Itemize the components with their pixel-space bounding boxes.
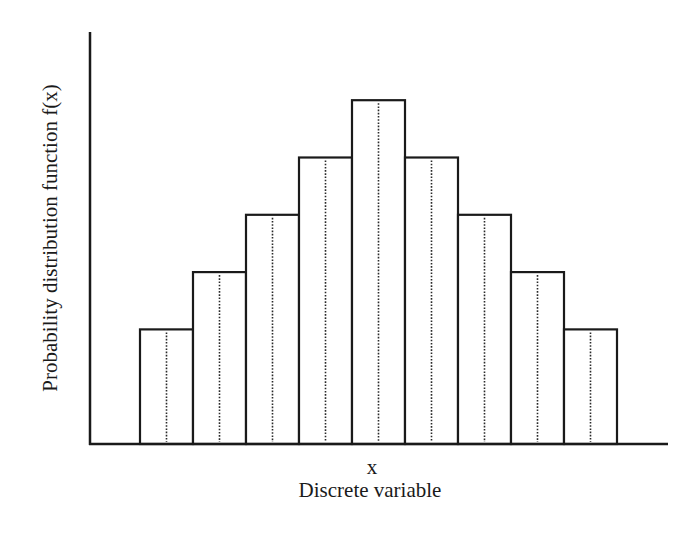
x-axis-symbol: x [367, 455, 378, 480]
histogram-bar [458, 215, 511, 444]
histogram-bar [140, 329, 193, 444]
bar-rect [246, 215, 299, 444]
bar-rect [458, 215, 511, 444]
histogram-plot [0, 0, 700, 534]
histogram-bar [193, 272, 246, 444]
histogram-bar [511, 272, 564, 444]
histogram-bar [564, 329, 617, 444]
histogram-bar [246, 215, 299, 444]
histogram-bar [352, 100, 405, 444]
histogram-bar [299, 158, 352, 445]
histogram-bar [405, 158, 458, 445]
y-axis-label: Probability distribution function f(x) [38, 84, 63, 391]
bars-group [140, 100, 617, 444]
x-axis-label: Discrete variable [299, 478, 442, 503]
